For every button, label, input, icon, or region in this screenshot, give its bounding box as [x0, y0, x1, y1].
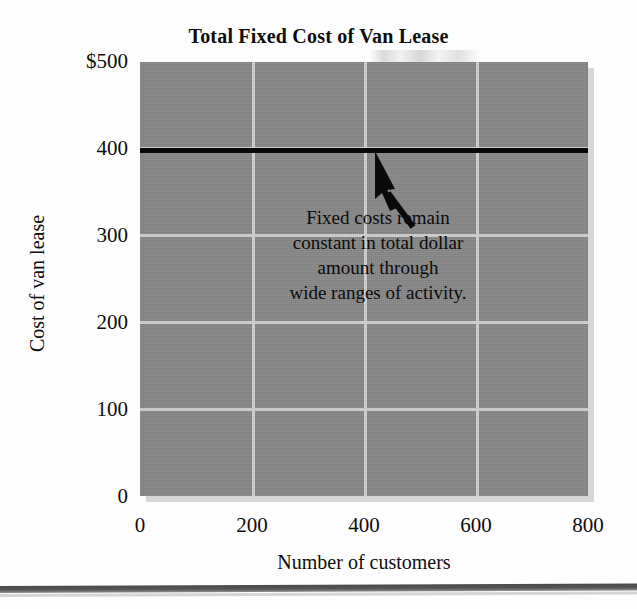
y-tick-500: $500: [40, 49, 128, 74]
x-tick-800: 800: [548, 513, 628, 538]
series-line-fixed-cost: [140, 148, 588, 153]
y-tick-200: 200: [40, 310, 128, 335]
x-tick-200: 200: [212, 513, 292, 538]
y-tick-300: 300: [40, 223, 128, 248]
x-tick-600: 600: [436, 513, 516, 538]
x-tick-0: 0: [100, 513, 180, 538]
annotation-line-2: constant in total dollar: [238, 230, 518, 255]
scan-artifact: [370, 50, 480, 62]
y-tick-0: 0: [40, 484, 128, 509]
annotation-callout: Fixed costs remain constant in total dol…: [238, 205, 518, 305]
y-tick-400: 400: [40, 136, 128, 161]
annotation-line-1: Fixed costs remain: [238, 205, 518, 230]
y-tick-100: 100: [40, 397, 128, 422]
figure-container: Total Fixed Cost of Van Lease Fixed cost…: [0, 0, 637, 609]
annotation-line-4: wide ranges of activity.: [238, 280, 518, 305]
y-axis-title: Cost of van lease: [26, 179, 49, 389]
annotation-line-3: amount through: [238, 255, 518, 280]
x-tick-400: 400: [324, 513, 404, 538]
x-axis-title: Number of customers: [140, 551, 588, 574]
